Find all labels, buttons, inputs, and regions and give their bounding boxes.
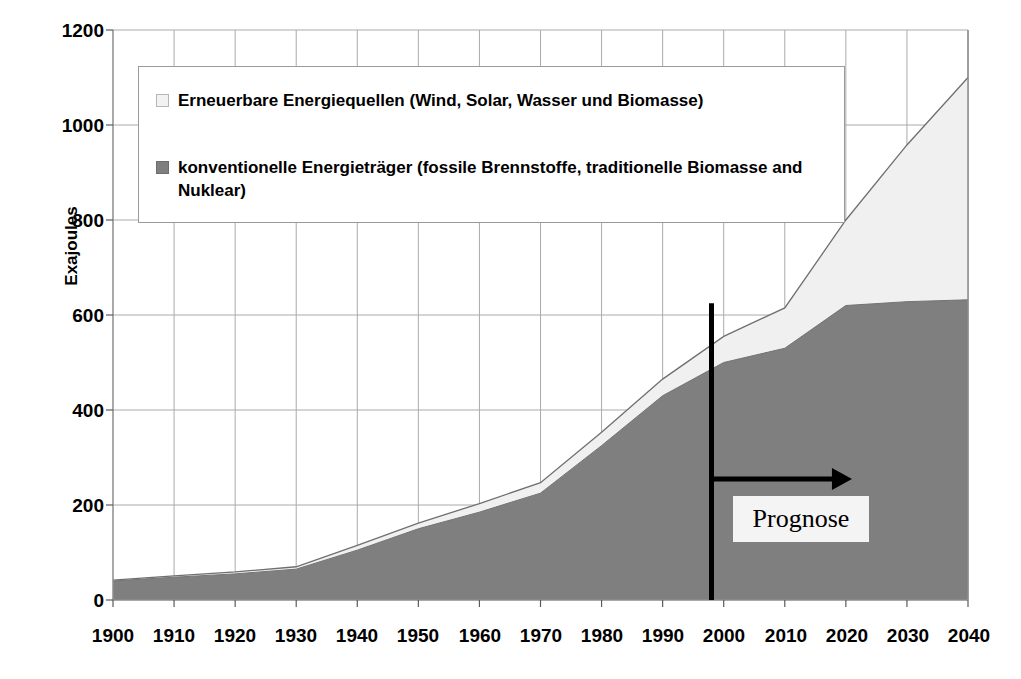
chart-figure: Exajoules 1200 1000 800 600 400 200 0 19… [0,0,1021,679]
legend-item-label: Erneuerbare Energiequellen (Wind, Solar,… [178,90,703,113]
chart-legend: Erneuerbare Energiequellen (Wind, Solar,… [138,66,845,223]
prognose-annotation: Prognose [733,496,869,542]
legend-swatch-solid-square-icon [156,161,169,174]
prognose-label: Prognose [753,504,850,534]
legend-item-renewable: Erneuerbare Energiequellen (Wind, Solar,… [156,90,703,113]
legend-item-conventional: konventionelle Energieträger (fossile Br… [156,157,828,202]
legend-swatch-open-square-icon [156,94,169,107]
legend-item-label: konventionelle Energieträger (fossile Br… [178,157,828,202]
